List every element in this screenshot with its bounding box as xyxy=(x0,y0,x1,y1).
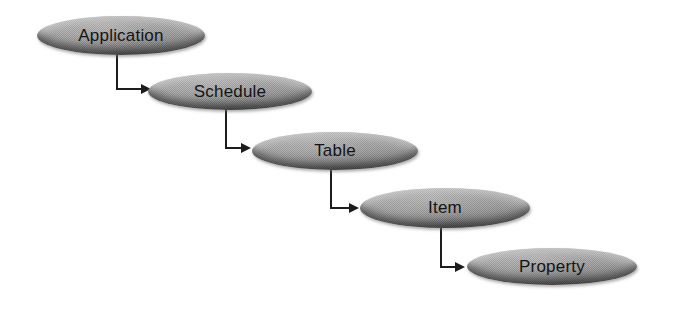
connector-vertical-segment xyxy=(225,108,227,149)
connector-vertical-segment xyxy=(330,168,332,209)
node-label: Table xyxy=(314,141,356,161)
arrowhead-icon xyxy=(455,262,465,272)
connector-horizontal-segment xyxy=(225,147,242,149)
connector-vertical-segment xyxy=(440,226,442,268)
node-label: Item xyxy=(428,198,462,218)
node-item: Item xyxy=(360,188,530,228)
connector-horizontal-segment xyxy=(440,266,456,268)
diagram-canvas: ApplicationScheduleTableItemProperty xyxy=(0,0,673,309)
arrowhead-icon xyxy=(241,143,251,153)
connector-vertical-segment xyxy=(116,53,118,90)
connector-horizontal-segment xyxy=(330,207,350,209)
node-property: Property xyxy=(467,248,637,285)
node-application: Application xyxy=(37,16,205,55)
node-label: Property xyxy=(519,257,585,277)
connector-horizontal-segment xyxy=(116,88,142,90)
node-schedule: Schedule xyxy=(148,73,312,110)
node-label: Schedule xyxy=(194,82,267,102)
arrowhead-icon xyxy=(349,203,359,213)
node-table: Table xyxy=(252,132,418,170)
node-label: Application xyxy=(78,26,163,46)
